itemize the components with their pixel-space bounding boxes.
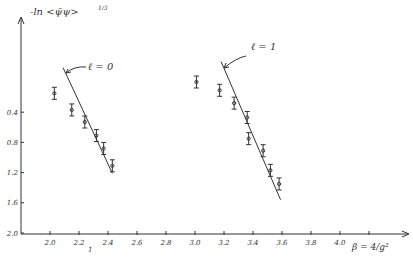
x-tick-label: 2.0 xyxy=(43,239,56,247)
x-tick-label: 2.4 xyxy=(101,239,113,247)
x-axis-label: β = 4/g² xyxy=(351,242,389,252)
chart: 2.02.22.42.62.83.03.23.43.63.84.00.40.81… xyxy=(0,0,413,257)
fit-line-0 xyxy=(63,68,112,174)
y-tick-label: 0.4 xyxy=(7,109,18,117)
x-tick-label: 3.6 xyxy=(276,239,288,247)
annotation-l1: ℓ = 1 xyxy=(251,41,276,52)
y-tick-label: 2.0 xyxy=(6,230,19,238)
x-tick-label: 3.2 xyxy=(218,239,230,247)
y-tick-label: 1.2 xyxy=(7,169,19,177)
y-tick-label: 1.6 xyxy=(7,199,19,207)
y-axis-label-exponent: 1/3 xyxy=(98,4,108,11)
x-tick-label: 4.0 xyxy=(333,239,346,247)
x-tick-label: 3.0 xyxy=(189,239,201,247)
x-tick-label: 2.2 xyxy=(72,239,85,247)
y-axis-label: -ln <ψ̄ψ> xyxy=(30,6,79,17)
annotation-l0: ℓ = 0 xyxy=(88,61,114,72)
x-tick-label: 2.8 xyxy=(159,239,172,247)
fit-line-1 xyxy=(221,62,280,200)
annotation-arrow-icon xyxy=(224,56,246,68)
y-tick-label: 0.8 xyxy=(7,139,19,147)
x-tick-label: 2.6 xyxy=(130,239,143,247)
x-tick-label: 3.4 xyxy=(247,239,258,247)
x-tick-label: 3.8 xyxy=(305,239,317,247)
axis-mark: 1 xyxy=(88,246,92,254)
